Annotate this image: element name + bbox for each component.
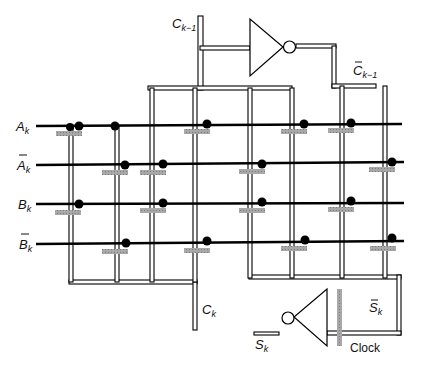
gate-bar [56, 131, 82, 136]
carry-in-bar-top-bus [332, 84, 376, 88]
contact-dot [347, 119, 356, 128]
input-line-a-bar [36, 162, 404, 165]
carry-in-to-inverter-wire [200, 46, 250, 50]
gate-bar [102, 249, 128, 254]
label-b-k: Bk [18, 197, 32, 214]
carry-out-bottom-bus [69, 280, 197, 284]
gate-bar [281, 246, 307, 251]
column-5 [248, 88, 252, 278]
label-sum-bar: Sk [369, 300, 383, 317]
label-carry-in: Ck−1 [172, 16, 196, 33]
column-7 [340, 86, 344, 278]
gate-bar [281, 129, 307, 134]
sum-out-wire [254, 332, 279, 335]
contact-dot [122, 239, 131, 248]
contact-dot [347, 197, 356, 206]
contact-dot [121, 161, 130, 170]
inverter-bubble-icon [284, 41, 296, 53]
contact-dot [258, 160, 267, 169]
carry-in-top-bus [148, 86, 292, 90]
gate-bar [239, 169, 265, 174]
column-wires [69, 16, 401, 335]
label-a-k-bar: Ak [16, 158, 31, 175]
gate-bar [140, 170, 166, 175]
column-3 [150, 88, 154, 282]
gate-bar [328, 207, 354, 212]
inverter-bubble-icon [282, 312, 294, 324]
contact-dot [66, 123, 74, 131]
contact-dot [159, 160, 168, 169]
input-line-b-bar [36, 241, 404, 244]
sum-bar-drop [397, 275, 401, 335]
label-b-k-bar: Bk [19, 237, 33, 254]
sum-inverter [282, 289, 327, 346]
contact-dot [388, 158, 397, 167]
contact-dot [203, 120, 212, 129]
contact-dot [388, 234, 397, 243]
label-sum: Sk [255, 337, 269, 354]
carry-in-bar-drop [332, 46, 336, 88]
contact-dot [300, 120, 309, 129]
sum-bar-bottom-bus [249, 275, 401, 279]
contact-dot [111, 122, 120, 131]
contact-dot [301, 236, 310, 245]
gate-bar [239, 208, 265, 213]
gate-bars [55, 128, 396, 346]
gate-bar [102, 170, 128, 175]
adder-circuit-diagram: Ak Ak Bk Bk Ck−1 Ck−1 Ck Sk Sk Clock [0, 0, 421, 368]
label-carry-in-bar: Ck−1 [353, 63, 377, 80]
contact-dot [203, 237, 212, 246]
gate-bar [369, 167, 395, 172]
inverter-triangle-icon [294, 289, 327, 346]
carry-in-wire [198, 16, 203, 90]
label-clock: Clock [350, 341, 381, 355]
gate-bar [140, 208, 166, 213]
contact-dot [159, 199, 168, 208]
gate-bar [328, 128, 354, 133]
contact-dot [258, 198, 267, 207]
label-carry-out: Ck [202, 302, 216, 319]
gate-bar [184, 129, 210, 134]
gate-bar [370, 246, 396, 251]
gate-bar [55, 210, 81, 215]
carry-out-wire [193, 282, 197, 330]
contact-dot [75, 122, 84, 131]
inverter-triangle-icon [250, 19, 283, 76]
carry-inverter [250, 19, 296, 76]
inverter-out-wire [296, 44, 336, 48]
input-lines [36, 124, 404, 244]
gate-bar [184, 248, 210, 253]
clock-gate-bar [337, 289, 342, 346]
label-a-k: Ak [15, 119, 30, 136]
contact-dot [75, 200, 84, 209]
